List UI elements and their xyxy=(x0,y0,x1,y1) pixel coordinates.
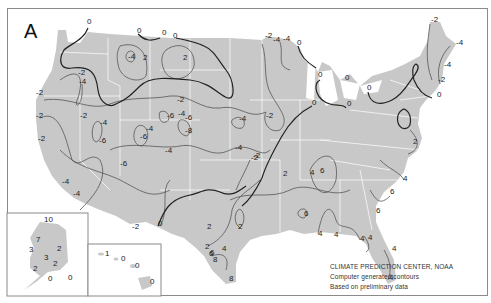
contour-label: -2 xyxy=(265,31,273,40)
contour-label: 0 xyxy=(173,31,178,40)
contour-label: -4 xyxy=(128,52,136,61)
contour-label: 0 xyxy=(297,38,302,47)
contour-label: -4 xyxy=(62,177,70,186)
credit-line-2: Computer generated contours xyxy=(330,273,419,280)
contour-label: 0 xyxy=(137,26,142,35)
contour-label: 6 xyxy=(376,206,381,215)
contour-label: 7 xyxy=(36,235,41,244)
contour-label: -2 xyxy=(251,153,259,162)
contour-label: -6 xyxy=(140,132,148,141)
contour-label: 0 xyxy=(345,73,350,82)
contour-label: -2 xyxy=(80,111,88,120)
contour-label: -2 xyxy=(132,222,140,231)
contour-label: 4 xyxy=(360,234,365,243)
contour-label: 2 xyxy=(207,222,212,231)
contour-label: -2 xyxy=(36,88,44,97)
credit-line-3: Based on preliminary data xyxy=(330,283,408,290)
contour-label: -4 xyxy=(73,189,81,198)
contour-label: 0 xyxy=(318,70,323,79)
contour-label: 0 xyxy=(48,274,53,283)
contour-label: 0 xyxy=(312,98,317,107)
contour-label: -2 xyxy=(431,15,439,24)
contour-label: 8 xyxy=(213,255,218,264)
contour-label: 0 xyxy=(135,261,140,270)
contour-label: 2 xyxy=(238,222,243,231)
contour-label: -6 xyxy=(167,111,175,120)
contour-label: 4 xyxy=(392,244,397,253)
contour-label: 10 xyxy=(44,215,53,224)
contour-label: 3 xyxy=(44,253,49,262)
contour-label: 0 xyxy=(150,277,155,286)
contour-label: -6 xyxy=(120,159,128,168)
contour-label: -4 xyxy=(165,146,173,155)
contour-label: 2 xyxy=(143,53,148,62)
contour-label: 4 xyxy=(334,230,339,239)
contour-label: 2 xyxy=(33,264,38,273)
contour-label: 2 xyxy=(183,53,188,62)
contour-label: -6 xyxy=(99,136,107,145)
contour-label: -4 xyxy=(79,77,87,86)
contour-label: -4 xyxy=(273,35,281,44)
contour-label: -4 xyxy=(444,60,452,69)
contour-label: 0 xyxy=(437,90,442,99)
contour-label: -6 xyxy=(185,113,193,122)
contour-label: -2 xyxy=(36,111,44,120)
contour-label: 4 xyxy=(310,168,315,177)
contour-label: -8 xyxy=(185,126,193,135)
contour-label: 6 xyxy=(320,166,325,175)
contour-label: -2 xyxy=(266,111,274,120)
contour-label: 6 xyxy=(304,209,309,218)
contour-label: -4 xyxy=(283,34,291,43)
contour-label: -4 xyxy=(146,124,154,133)
contour-label: 2 xyxy=(57,244,62,253)
contour-label: 1 xyxy=(105,249,110,258)
contour-label: 6 xyxy=(390,187,395,196)
contour-label: 8 xyxy=(229,274,234,283)
contour-label: 0 xyxy=(87,17,92,26)
contour-label: -4 xyxy=(100,118,108,127)
contour-label: 0 xyxy=(68,273,73,282)
contour-label: 4 xyxy=(222,244,227,253)
contour-label: 0 xyxy=(367,83,372,92)
contour-label: -2 xyxy=(78,68,86,77)
hawaii-inset-frame xyxy=(88,244,161,296)
contour-label: 2 xyxy=(413,137,418,146)
contour-label: 3 xyxy=(29,245,34,254)
contour-label: -4 xyxy=(239,114,247,123)
contour-label: 0 xyxy=(162,28,167,37)
contour-label: -2 xyxy=(177,95,185,104)
contour-label: 4 xyxy=(318,229,323,238)
contour-map: 0000-422-2-4-2-2-2-4-6-2-2-6-4-6-4-8-6-6… xyxy=(0,0,491,303)
contour-label: 2 xyxy=(283,169,288,178)
panel-label: A xyxy=(24,20,37,43)
contour-label: -4 xyxy=(235,143,243,152)
credit-line-1: CLIMATE PREDICTION CENTER, NOAA xyxy=(330,263,453,270)
contour-label: 4 xyxy=(368,233,373,242)
contour-label: 0 xyxy=(158,219,163,228)
contour-label: -2 xyxy=(438,75,446,84)
contour-label: -2 xyxy=(38,134,46,143)
contour-label: 2 xyxy=(53,259,58,268)
contour-label: -4 xyxy=(456,38,464,47)
contour-label: 0 xyxy=(347,99,352,108)
contour-label: 0 xyxy=(121,254,126,263)
contour-label: 4 xyxy=(403,174,408,183)
